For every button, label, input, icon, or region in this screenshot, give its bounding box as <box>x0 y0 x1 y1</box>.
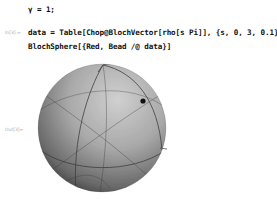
bloch-sphere-graphic[interactable] <box>0 0 277 208</box>
bead <box>140 98 145 103</box>
sphere <box>38 64 166 192</box>
